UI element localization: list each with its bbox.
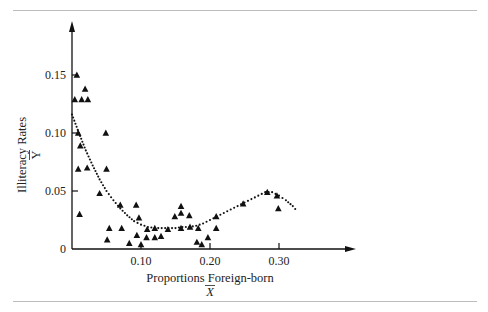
data-point	[144, 226, 151, 232]
curve-dot	[128, 216, 130, 218]
curve-dot	[122, 210, 124, 212]
curve-dot	[105, 190, 107, 192]
curve-dot	[88, 155, 90, 157]
curve-dot	[94, 170, 96, 172]
data-point	[152, 225, 159, 231]
curve-dot	[199, 224, 201, 226]
data-point	[76, 211, 83, 217]
curve-dot	[74, 123, 76, 125]
data-point	[158, 233, 165, 239]
curve-dot	[126, 214, 128, 216]
curve-dot	[233, 207, 235, 209]
curve-dot	[89, 158, 91, 160]
curve-dot	[261, 193, 263, 195]
x-tick-label: 0.30	[269, 254, 290, 268]
data-point	[178, 210, 185, 216]
curve-dot	[237, 205, 239, 207]
curve-dot	[99, 178, 101, 180]
curve-dot	[195, 225, 197, 227]
curve-dot	[185, 226, 187, 228]
x-axis-arrow-icon	[345, 246, 356, 252]
x-ticks: 0.100.200.30	[131, 243, 290, 268]
curve-dot	[90, 161, 92, 163]
data-point	[117, 202, 124, 208]
data-point	[75, 166, 82, 172]
data-point	[172, 213, 179, 219]
curve-dot	[226, 210, 228, 212]
curve-dot	[92, 164, 94, 166]
curve-dot	[157, 227, 159, 229]
curve-dot	[96, 173, 98, 175]
data-point	[126, 240, 133, 246]
y-ticks: 00.050.100.15	[45, 68, 78, 256]
x-tick-label: 0.10	[131, 254, 152, 268]
data-point	[84, 164, 91, 170]
x-tick-label: 0.20	[200, 254, 221, 268]
curve-dot	[137, 222, 139, 224]
data-point	[134, 232, 141, 238]
curve-dot	[82, 144, 84, 146]
curve-dot	[115, 202, 117, 204]
y-tick-label: 0.15	[45, 68, 66, 82]
curve-dot	[250, 198, 252, 200]
y-tick-label: 0.05	[45, 184, 66, 198]
curve-dot	[140, 224, 142, 226]
curve-dot	[124, 212, 126, 214]
curve-dot	[133, 220, 135, 222]
curve-dot	[230, 209, 232, 211]
curve-dot	[247, 200, 249, 202]
data-point	[133, 202, 140, 208]
x-axis-symbol: X	[205, 285, 215, 299]
curve-dot	[161, 227, 163, 229]
curve-dot	[192, 225, 194, 227]
curve-dot	[281, 197, 283, 199]
curve-dot	[80, 138, 82, 140]
data-point	[194, 239, 201, 245]
data-point	[118, 225, 125, 231]
y-axis-arrow-icon	[69, 21, 75, 32]
curve-dot	[219, 214, 221, 216]
data-point	[213, 225, 220, 231]
curve-dot	[100, 181, 102, 183]
data-point	[96, 190, 103, 196]
curve-dot	[73, 120, 75, 122]
curve-dot	[81, 141, 83, 143]
data-point	[104, 236, 111, 242]
curve-dot	[285, 199, 287, 201]
curve-dot	[164, 227, 166, 229]
data-point	[103, 130, 110, 136]
data-point	[275, 205, 282, 211]
curve-dot	[93, 167, 95, 169]
data-point	[213, 213, 220, 219]
curve-dot	[174, 227, 176, 229]
y-axis-symbol: Y	[29, 150, 43, 159]
curve-dot	[108, 193, 110, 195]
y-tick-label: 0	[60, 242, 66, 256]
data-point	[205, 234, 212, 240]
scatter-chart: 00.050.100.15 0.100.200.30 Proportions F…	[0, 0, 488, 312]
curve-dot	[143, 225, 145, 227]
data-points	[71, 72, 281, 248]
curve-dot	[150, 226, 152, 228]
curve-dot	[223, 212, 225, 214]
curve-dot	[289, 203, 291, 205]
data-point	[106, 225, 113, 231]
curve-dot	[257, 195, 259, 197]
data-point	[178, 203, 185, 209]
data-point	[77, 142, 84, 148]
curve-dot	[86, 152, 88, 154]
curve-dot	[202, 222, 204, 224]
y-axis-title: Illiteracy Rates	[15, 117, 29, 193]
curve-dot	[254, 196, 256, 198]
data-point	[152, 234, 159, 240]
curve-dot	[76, 126, 78, 128]
curve-dot	[209, 219, 211, 221]
curve-dot	[287, 201, 289, 203]
data-point	[136, 214, 143, 220]
curve-dot	[84, 146, 86, 148]
y-tick-label: 0.10	[45, 126, 66, 140]
data-point	[78, 96, 85, 102]
curve-dot	[97, 176, 99, 178]
y-axis-title-group: Illiteracy Rates Y	[15, 117, 43, 193]
curve-dot	[85, 149, 87, 151]
